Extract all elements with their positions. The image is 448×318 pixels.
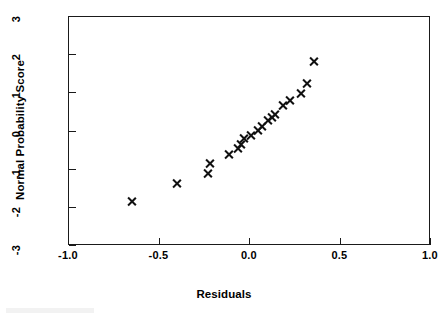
y-axis-tick bbox=[69, 92, 76, 93]
y-axis-tick-label: -2 bbox=[11, 207, 22, 217]
data-point-marker bbox=[284, 95, 295, 106]
data-point-marker bbox=[126, 196, 137, 207]
y-axis-tick-label: -3 bbox=[11, 245, 22, 255]
x-axis-tick bbox=[340, 238, 341, 245]
data-point-marker bbox=[224, 149, 235, 160]
y-axis-tick bbox=[69, 245, 76, 246]
data-point-marker bbox=[295, 88, 306, 99]
data-point-marker bbox=[235, 139, 246, 150]
data-point-marker bbox=[205, 158, 216, 169]
x-axis-tick-label: 0.5 bbox=[332, 250, 348, 261]
x-axis-tick bbox=[249, 238, 250, 245]
y-axis-tick bbox=[69, 16, 76, 17]
y-axis-tick-label: 3 bbox=[11, 16, 22, 22]
data-point-marker bbox=[266, 112, 277, 123]
plot-data-area bbox=[68, 16, 430, 245]
data-point-marker bbox=[263, 115, 274, 126]
data-point-marker bbox=[253, 125, 264, 136]
y-axis-title: Normal Probability Score bbox=[14, 60, 26, 200]
x-axis-tick-label: -1.0 bbox=[58, 250, 78, 261]
data-point-marker bbox=[301, 78, 312, 89]
x-axis-tick-label: 1.0 bbox=[422, 250, 438, 261]
data-point-marker bbox=[277, 100, 288, 111]
x-axis-tick-label: -0.5 bbox=[149, 250, 169, 261]
data-point-marker bbox=[233, 143, 244, 154]
data-point-marker bbox=[270, 109, 281, 120]
y-axis-tick bbox=[69, 207, 76, 208]
x-axis-title: Residuals bbox=[0, 288, 448, 300]
x-axis-tick bbox=[68, 238, 69, 245]
data-point-marker bbox=[309, 56, 320, 67]
scan-artifact bbox=[6, 308, 94, 313]
x-axis-tick-label: 0.0 bbox=[241, 250, 257, 261]
y-axis-tick bbox=[69, 54, 76, 55]
y-axis-tick bbox=[69, 169, 76, 170]
data-point-marker bbox=[238, 133, 249, 144]
data-point-marker bbox=[245, 130, 256, 141]
x-axis-tick bbox=[430, 238, 431, 245]
data-point-marker bbox=[171, 178, 182, 189]
y-axis-tick bbox=[69, 131, 76, 132]
data-point-marker bbox=[203, 168, 214, 179]
x-axis-tick bbox=[159, 238, 160, 245]
data-point-marker bbox=[256, 121, 267, 132]
normal-probability-plot-figure: -3-2-10123 -1.0-0.50.00.51.0 Normal Prob… bbox=[0, 0, 448, 318]
